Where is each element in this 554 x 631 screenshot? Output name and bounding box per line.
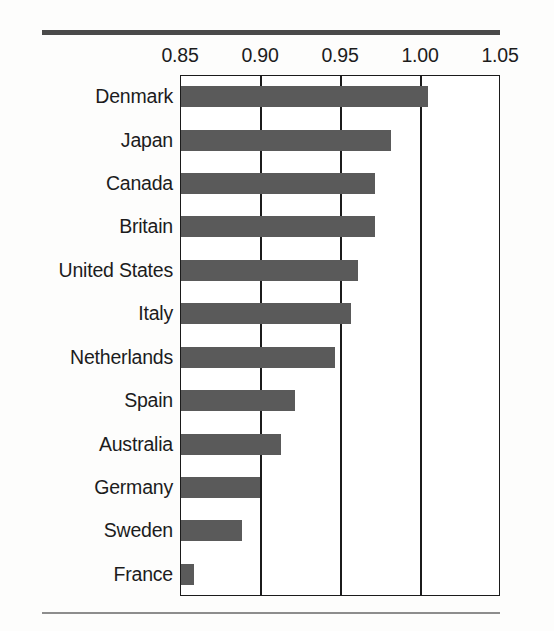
bottom-rule [42,612,500,614]
category-label: United States [0,259,173,282]
bar [181,564,194,585]
category-label: Canada [0,172,173,195]
bar [181,260,358,281]
bar [181,86,428,107]
x-tick-label: 0.95 [321,44,358,67]
bar-row: United States [0,249,554,292]
category-label: Australia [0,433,173,456]
x-tick-label: 1.05 [481,44,518,67]
category-label: Sweden [0,519,173,542]
x-tick-label: 0.85 [161,44,198,67]
x-axis-tick-labels: 0.850.900.951.001.05 [0,44,554,68]
bar-row: Germany [0,466,554,509]
category-label: Germany [0,476,173,499]
bar [181,434,281,455]
bar-rows: DenmarkJapanCanadaBritainUnited StatesIt… [0,75,554,596]
bar-row: Japan [0,118,554,161]
category-label: France [0,563,173,586]
bar-row: Britain [0,205,554,248]
category-label: Britain [0,215,173,238]
bar-row: Australia [0,422,554,465]
category-label: Italy [0,302,173,325]
bar-row: Canada [0,162,554,205]
top-rule [42,30,500,35]
bar [181,173,375,194]
x-tick-label: 1.00 [401,44,438,67]
bar [181,347,335,368]
category-label: Spain [0,389,173,412]
bar-row: Sweden [0,509,554,552]
bar [181,130,391,151]
category-label: Denmark [0,85,173,108]
bar-row: Italy [0,292,554,335]
chart-figure: 0.850.900.951.001.05 DenmarkJapanCanadaB… [0,0,554,631]
bar [181,520,242,541]
bar-row: France [0,553,554,596]
category-label: Japan [0,129,173,152]
category-label: Netherlands [0,346,173,369]
bar [181,216,375,237]
x-tick-label: 0.90 [241,44,278,67]
bar-row: Denmark [0,75,554,118]
bar-row: Spain [0,379,554,422]
bar [181,390,295,411]
bar [181,477,260,498]
bar-row: Netherlands [0,336,554,379]
bar [181,303,351,324]
